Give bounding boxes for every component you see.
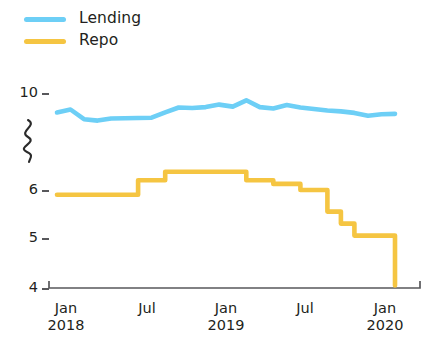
x-axis-year-0: 2018 — [31, 317, 101, 334]
x-axis-month-2: Jan — [215, 300, 237, 316]
x-axis-month-4: Jan — [374, 300, 396, 316]
chart-canvas — [0, 0, 431, 340]
x-axis-label-jul-2018: Jul — [112, 300, 182, 317]
x-axis-label-jan-2020: Jan 2020 — [350, 300, 420, 334]
x-axis-year-2: 2019 — [191, 317, 261, 334]
x-axis-month-1: Jul — [138, 300, 156, 316]
x-axis-label-jan-2018: Jan 2018 — [31, 300, 101, 334]
series-line-lending — [57, 100, 395, 120]
x-axis-year-4: 2020 — [350, 317, 420, 334]
x-axis-label-jul-2019: Jul — [270, 300, 340, 317]
x-axis-line — [49, 281, 420, 288]
x-axis-label-jan-2019: Jan 2019 — [191, 300, 261, 334]
y-axis-break-icon — [24, 120, 31, 162]
x-axis-month-0: Jan — [55, 300, 77, 316]
series-line-repo — [57, 172, 395, 286]
line-chart: Lending Repo 10 6 5 4 Jan 2018 Jul Jan 2… — [0, 0, 431, 340]
x-axis-month-3: Jul — [296, 300, 314, 316]
